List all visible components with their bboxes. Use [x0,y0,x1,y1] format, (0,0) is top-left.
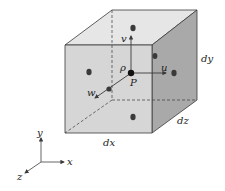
fluid-element-diagram: v u w ρ P dx dy dz y x z [0,0,225,191]
label-dy: dy [201,53,213,64]
dot-top-face [130,25,135,31]
dot-bottom-face [130,114,135,120]
label-w: w [87,87,96,98]
label-dz: dz [177,115,189,126]
axis-label-z: z [16,171,23,182]
z-axis-arrow [25,162,41,173]
point-p [128,70,134,76]
dot-right-face [171,70,176,76]
axis-label-x: x [67,156,73,167]
label-u: u [161,62,167,73]
dot-back-face [153,53,158,59]
label-v: v [121,33,127,44]
axis-label-y: y [36,127,43,138]
label-rho: ρ [119,62,126,73]
label-dx: dx [103,137,115,148]
label-p: P [129,77,137,88]
dot-left-face [86,69,91,75]
coordinate-axes: y x z [16,127,73,182]
